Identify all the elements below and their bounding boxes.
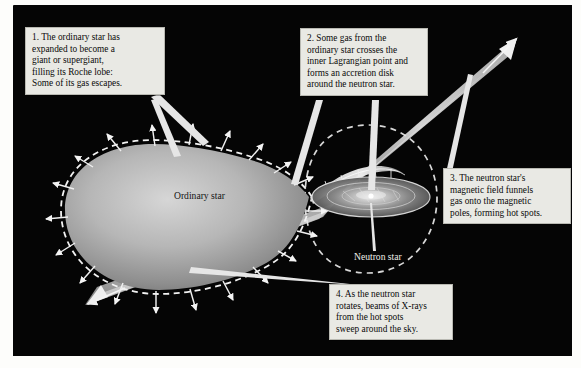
callout-1-line-5: Some of its gas escapes. [32, 78, 159, 90]
callout-2-line-3: inner Lagrangian point and [307, 56, 422, 68]
callout-box-1: 1. The ordinary star has expanded to bec… [25, 27, 165, 95]
callout-4-line-1: 4. As the neutron star [336, 289, 447, 301]
label-neutron-star: Neutron star [354, 251, 402, 262]
callout-3-line-4: poles, forming hot spots. [450, 208, 565, 220]
callout-2-line-4: forms an accretion disk [307, 68, 422, 80]
callout-1-line-4: filling its Roche lobe: [32, 67, 159, 79]
callout-3-line-3: gas onto the magnetic [450, 196, 565, 208]
callout-2-line-2: ordinary star crosses the [307, 45, 422, 57]
callout-3-line-1: 3. The neutron star's [450, 173, 565, 185]
star-body [65, 144, 309, 290]
figure-page: Ordinary star Neutron star 1. The ordina… [0, 0, 581, 368]
callout-2-line-5: around the neutron star. [307, 79, 422, 91]
ordinary-star [61, 140, 312, 294]
callout-1-line-1: 1. The ordinary star has [32, 32, 159, 44]
callout-box-2: 2. Some gas from the ordinary star cross… [300, 28, 428, 96]
callout-3-line-2: magnetic field funnels [450, 185, 565, 197]
callout-1-line-2: expanded to become a [32, 44, 159, 56]
callout-box-4: 4. As the neutron star rotates, beams of… [329, 284, 453, 340]
callout-4-line-2: rotates, beams of X-rays [336, 301, 447, 313]
callout-box-3: 3. The neutron star's magnetic field fun… [443, 168, 571, 224]
neutron-star-point [368, 193, 373, 198]
callout-2-line-1: 2. Some gas from the [307, 33, 422, 45]
callout-1-line-3: giant or supergiant, [32, 55, 159, 67]
callout-4-line-4: sweep around the sky. [336, 324, 447, 336]
label-ordinary-star: Ordinary star [174, 190, 225, 201]
callout-4-line-3: from the hot spots [336, 312, 447, 324]
diagram-plate: Ordinary star Neutron star 1. The ordina… [13, 5, 572, 356]
